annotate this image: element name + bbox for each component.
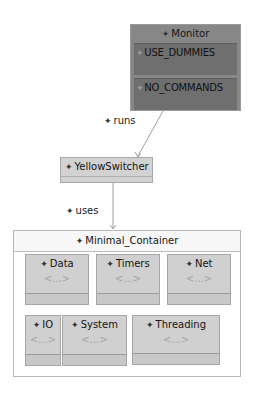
package-footer (26, 354, 60, 365)
edge-runs-text: runs (114, 115, 136, 126)
element-marker-icon: ✦ (65, 162, 73, 172)
package-title: ✦Data (26, 257, 88, 271)
package-body: <...> (133, 333, 219, 346)
package-title-text: System (81, 319, 118, 330)
field-label: NO_COMMANDS (144, 82, 223, 93)
yellowswitcher-node[interactable]: ✦YellowSwitcher (60, 157, 153, 183)
element-marker-icon: ✦ (71, 320, 79, 330)
element-marker-icon: ✦ (104, 116, 112, 126)
package-footer (97, 293, 159, 304)
container-title-text: Minimal_Container (85, 235, 178, 246)
package-body: <...> (168, 272, 230, 285)
element-marker-icon: ✦ (33, 320, 41, 330)
container-title: ✦Minimal_Container (14, 231, 240, 252)
package-body: <...> (26, 333, 60, 346)
package-title: ✦Timers (97, 257, 159, 271)
field-use-dummies[interactable]: ✦USE_DUMMIES (134, 43, 237, 75)
package-title-text: Threading (156, 319, 206, 330)
monitor-node[interactable]: ✦Monitor ✦USE_DUMMIES ✦NO_COMMANDS (130, 24, 241, 111)
element-marker-icon: ✦ (162, 29, 170, 39)
package-io[interactable]: ✦IO <...> (25, 315, 61, 366)
field-label: USE_DUMMIES (144, 47, 215, 58)
package-title-text: Net (195, 258, 213, 269)
package-title-text: Timers (116, 258, 150, 269)
element-marker-icon: ✦ (106, 259, 114, 269)
edge-uses-text: uses (76, 205, 99, 216)
package-title-text: Data (50, 258, 74, 269)
package-threading[interactable]: ✦Threading <...> (132, 315, 220, 365)
package-footer (63, 354, 126, 365)
element-marker-icon: ✦ (185, 259, 193, 269)
field-marker-icon: ✦ (136, 83, 143, 93)
monitor-title: ✦Monitor (131, 27, 240, 41)
package-system[interactable]: ✦System <...> (62, 315, 127, 366)
monitor-title-text: Monitor (171, 28, 209, 39)
package-footer (26, 293, 88, 304)
package-title: ✦Net (168, 257, 230, 271)
package-title-text: IO (42, 319, 53, 330)
field-no-commands[interactable]: ✦NO_COMMANDS (134, 78, 237, 110)
element-marker-icon: ✦ (66, 206, 74, 216)
edge-runs-line[interactable] (138, 111, 163, 156)
element-marker-icon: ✦ (76, 236, 84, 246)
field-marker-icon: ✦ (136, 48, 143, 58)
yellowswitcher-title: ✦YellowSwitcher (61, 158, 152, 177)
package-body: <...> (97, 272, 159, 285)
edge-uses-label[interactable]: ✦uses (66, 205, 98, 216)
package-title: ✦IO (26, 318, 60, 332)
minimal-container-node[interactable]: ✦Minimal_Container ✦Data <...> ✦Timers <… (13, 230, 241, 377)
package-timers[interactable]: ✦Timers <...> (96, 254, 160, 305)
package-data[interactable]: ✦Data <...> (25, 254, 89, 305)
package-body: <...> (26, 272, 88, 285)
package-footer (133, 353, 219, 364)
yellowswitcher-title-text: YellowSwitcher (75, 161, 149, 172)
package-footer (168, 293, 230, 304)
element-marker-icon: ✦ (146, 320, 154, 330)
edge-runs-label[interactable]: ✦runs (104, 115, 136, 126)
package-title: ✦Threading (133, 318, 219, 332)
package-net[interactable]: ✦Net <...> (167, 254, 231, 305)
package-title: ✦System (63, 318, 126, 332)
element-marker-icon: ✦ (40, 259, 48, 269)
package-body: <...> (63, 333, 126, 346)
